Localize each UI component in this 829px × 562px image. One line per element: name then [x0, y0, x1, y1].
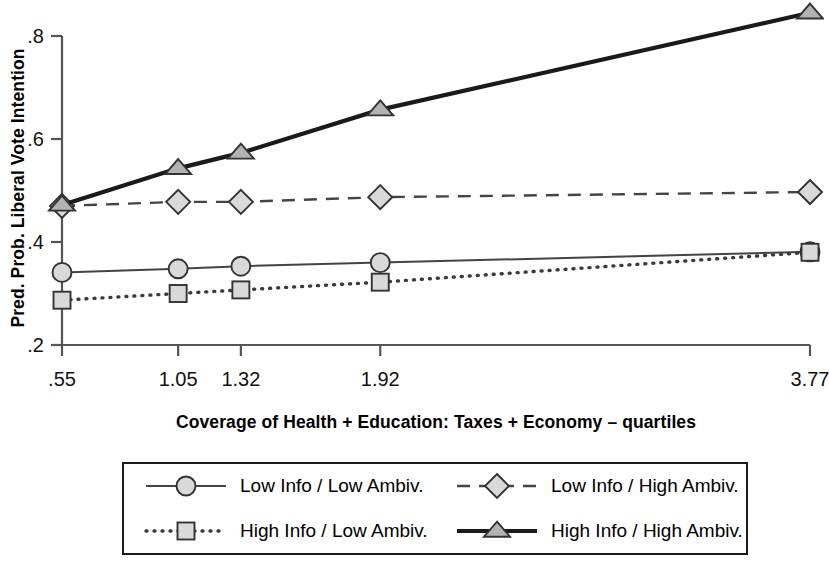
diamond-icon — [485, 474, 509, 498]
legend-swatch — [140, 516, 232, 546]
x-tick-label: 1.32 — [221, 368, 260, 391]
plot-area — [0, 0, 824, 400]
legend: Low Info / Low Ambiv.Low Info / High Amb… — [122, 462, 748, 555]
data-point-circle — [169, 259, 188, 278]
x-tick-label: 1.92 — [361, 368, 400, 391]
y-tick-label: .8 — [27, 25, 44, 48]
series-line — [62, 13, 810, 205]
x-axis-title: Coverage of Health + Education: Taxes + … — [62, 409, 810, 435]
data-point-square — [232, 281, 249, 298]
data-point-square — [802, 244, 819, 261]
square-icon — [178, 522, 195, 539]
data-point-diamond — [229, 190, 253, 214]
series-layer — [49, 4, 823, 309]
legend-entry: High Info / Low Ambiv. — [124, 516, 435, 546]
data-point-circle — [53, 263, 72, 282]
legend-entry: High Info / High Ambiv. — [435, 516, 746, 546]
y-tick-label: .2 — [27, 334, 44, 357]
circle-icon — [177, 477, 196, 496]
legend-swatch — [451, 516, 543, 546]
legend-label: Low Info / High Ambiv. — [543, 475, 739, 497]
data-point-triangle — [797, 4, 823, 19]
y-tick-label: .4 — [27, 231, 44, 254]
tick-marks — [51, 36, 810, 356]
series-triangle — [49, 4, 823, 211]
data-point-square — [170, 285, 187, 302]
data-point-diamond — [798, 180, 822, 204]
legend-swatch — [140, 471, 232, 501]
x-tick-label: 1.05 — [159, 368, 198, 391]
legend-label: High Info / High Ambiv. — [543, 520, 743, 542]
legend-swatch — [451, 471, 543, 501]
data-point-circle — [371, 253, 390, 272]
legend-label: High Info / Low Ambiv. — [232, 520, 428, 542]
data-point-diamond — [368, 185, 392, 209]
data-point-square — [54, 292, 71, 309]
x-tick-label: .55 — [48, 368, 76, 391]
legend-entry: Low Info / Low Ambiv. — [124, 471, 435, 501]
legend-label: Low Info / Low Ambiv. — [232, 475, 423, 497]
data-point-circle — [231, 257, 250, 276]
legend-entry: Low Info / High Ambiv. — [435, 471, 746, 501]
y-tick-label: .6 — [27, 128, 44, 151]
series-circle — [53, 242, 820, 282]
series-diamond — [50, 180, 822, 218]
data-point-diamond — [166, 190, 190, 214]
data-point-square — [372, 274, 389, 291]
x-tick-label: 3.77 — [791, 368, 829, 391]
